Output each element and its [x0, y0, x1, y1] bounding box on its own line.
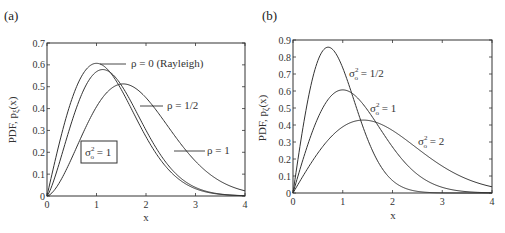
panel-b-ticks: 0123400.10.20.30.40.50.60.70.80.9: [279, 35, 495, 208]
y-tick-label: 0.7: [279, 69, 292, 80]
y-tick-label: 0.9: [279, 35, 292, 46]
y-tick-label: 0.4: [279, 120, 292, 131]
panel-b-ylabel-suffix: (x): [256, 94, 269, 107]
figure: (a) 0123400.10.20.30.40.50.60.7 x PDF, p…: [0, 0, 505, 233]
panel-a: (a) 0123400.10.20.30.40.50.60.7 x PDF, p…: [4, 8, 248, 223]
x-tick-label: 2: [144, 199, 149, 210]
y-tick-label: 0.5: [279, 103, 292, 114]
panel-b-label: (b): [262, 8, 277, 23]
panel-a-label: (a): [4, 8, 18, 23]
series-line-2: [293, 120, 492, 193]
panel-a-ylabel-main: PDF, p: [6, 113, 18, 144]
x-tick-label: 4: [243, 199, 248, 210]
x-tick-label: 0: [45, 199, 50, 210]
label-sigma-1: σ2o = 1: [370, 101, 396, 117]
panel-b-curves: [293, 47, 492, 193]
x-tick-label: 3: [440, 196, 445, 207]
sigma-value: = 1: [94, 146, 111, 158]
y-tick-label: 0.7: [33, 38, 46, 49]
x-tick-label: 0: [291, 196, 296, 207]
x-tick-label: 1: [94, 199, 99, 210]
y-tick-label: 0: [40, 191, 45, 202]
label-sigma-half: σ2o = 1/2: [349, 66, 384, 82]
y-tick-label: 0.3: [33, 125, 46, 136]
sigma-value: = 2: [427, 135, 444, 147]
label-rho-1: ρ = 1: [207, 144, 230, 156]
panel-a-xlabel: x: [143, 211, 149, 223]
y-tick-label: 0.6: [33, 59, 46, 70]
x-tick-label: 1: [340, 196, 345, 207]
y-tick-label: 0.2: [33, 147, 46, 158]
label-rho-half: ρ = 1/2: [167, 99, 198, 111]
sigma-value: = 1/2: [358, 67, 384, 79]
panel-a-sigma-box: σ2o = 1: [81, 141, 117, 163]
y-tick-label: 0.1: [279, 171, 292, 182]
panel-a-ylabel-suffix: (x): [6, 96, 19, 109]
label-sigma-2: σ2o = 2: [418, 134, 444, 150]
y-tick-label: 0.6: [279, 86, 292, 97]
y-tick-label: 0.3: [279, 137, 292, 148]
panel-a-curves: [47, 63, 245, 196]
y-tick-label: 0.8: [279, 52, 292, 63]
sigma-value: = 1: [379, 102, 396, 114]
y-tick-label: 0.2: [279, 154, 292, 165]
y-tick-label: 0.1: [33, 169, 46, 180]
series-line-0: [293, 47, 492, 193]
y-tick-label: 0.5: [33, 81, 46, 92]
panel-b-ylabel: PDF, pζ(x): [256, 94, 271, 141]
x-tick-label: 4: [490, 196, 495, 207]
x-tick-label: 3: [193, 199, 198, 210]
panel-b-ylabel-main: PDF, p: [256, 110, 268, 141]
panel-a-ylabel: PDF, pξ(x): [6, 96, 21, 143]
series-line-2: [47, 84, 245, 196]
y-tick-label: 0.4: [33, 103, 46, 114]
series-line-1: [47, 70, 245, 196]
x-tick-label: 2: [390, 196, 395, 207]
y-tick-label: 0: [286, 188, 291, 199]
panel-b-axes-box: [293, 40, 492, 193]
panel-b-xlabel: x: [390, 209, 396, 221]
panel-b: (b) 0123400.10.20.30.40.50.60.70.80.9 x …: [256, 8, 495, 221]
label-rho-0: ρ = 0 (Rayleigh): [131, 57, 204, 70]
